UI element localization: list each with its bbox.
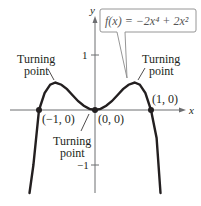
y-axis-arrow-icon [93,16,98,23]
x-axis-arrow-icon [179,108,186,113]
point-label-pos1: (1, 0) [152,92,178,106]
tick-label-pos1: 1 [82,49,88,61]
point-label-word: point [24,64,49,78]
annotation-right-turning: Turning point [138,52,180,80]
leader-line [81,114,89,131]
point-label-word: point [60,146,85,160]
point-label-word: point [149,64,174,78]
chart: x y 1 −1 (−1, 0) (0, 0) (1, 0) Turning p… [0,0,201,206]
function-label: f(x) = −2x⁴ + 2x² [105,14,189,28]
annotation-left-turning: Turning point [17,52,55,80]
y-axis-label: y [89,4,95,16]
function-callout: f(x) = −2x⁴ + 2x² [100,9,196,78]
leader-line [138,68,145,80]
point-label-origin: (0, 0) [98,112,124,126]
tick-label-neg1: −1 [77,159,89,171]
x-axis-label: x [188,104,194,116]
leader-line [48,69,54,80]
point-pos1 [148,107,154,113]
point-label-neg1: (−1, 0) [42,112,75,126]
